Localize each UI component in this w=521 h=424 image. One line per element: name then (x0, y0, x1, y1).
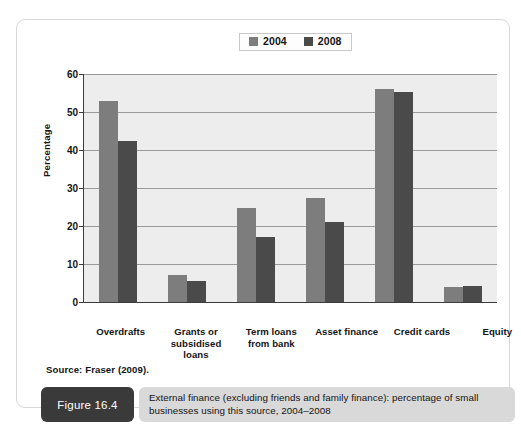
bar-2004 (99, 101, 118, 302)
bar-2004 (237, 208, 256, 302)
y-tick-label: 0 (72, 297, 78, 308)
y-tick-mark (79, 302, 84, 303)
x-axis-label: Term loans from bank (234, 326, 309, 361)
bar-group (153, 74, 222, 302)
y-tick-label: 10 (67, 259, 78, 270)
bar-group (84, 74, 153, 302)
x-axis-label: Grants or subsidised loans (158, 326, 233, 361)
bar-2008 (463, 286, 482, 302)
legend-swatch-2004 (249, 37, 258, 46)
legend-label-2004: 2004 (263, 36, 287, 47)
bar-2008 (325, 222, 344, 302)
bar-2008 (187, 281, 206, 302)
chart-plot-region: Percentage 0102030405060 (45, 67, 497, 323)
figure-number-tag: Figure 16.4 (41, 387, 134, 422)
bar-2008 (394, 92, 413, 302)
x-axis-labels: OverdraftsGrants or subsidised loansTerm… (83, 326, 521, 361)
legend-label-2008: 2008 (318, 36, 342, 47)
bar-group (222, 74, 291, 302)
bar-2004 (375, 89, 394, 302)
y-tick-label: 40 (67, 145, 78, 156)
bar-group (359, 74, 428, 302)
figure-panel: 2004 2008 Percentage 0102030405060 Overd… (16, 19, 510, 408)
source-note: Source: Fraser (2009). (46, 364, 149, 375)
y-tick-label: 50 (67, 107, 78, 118)
legend-swatch-2008 (304, 37, 313, 46)
bar-2008 (118, 141, 137, 302)
bar-2008 (256, 237, 275, 302)
figure-caption-strip: Figure 16.4 External finance (excluding … (41, 387, 515, 422)
y-tick-label: 60 (67, 69, 78, 80)
x-axis-label: Credit cards (384, 326, 459, 361)
chart-legend: 2004 2008 (239, 33, 352, 51)
plot-area: 0102030405060 (83, 74, 497, 303)
bar-2004 (306, 198, 325, 303)
x-axis-label: Overdrafts (83, 326, 158, 361)
y-axis-title: Percentage (41, 163, 52, 177)
y-tick-label: 20 (67, 221, 78, 232)
bar-group (290, 74, 359, 302)
legend-entry-2008: 2008 (304, 36, 342, 47)
bars-layer (84, 74, 497, 302)
bar-2004 (444, 287, 463, 302)
x-axis-label: Asset finance (309, 326, 384, 361)
x-axis-label: Equity (460, 326, 521, 361)
figure-caption-text: External finance (excluding friends and … (139, 387, 515, 422)
legend-entry-2004: 2004 (249, 36, 287, 47)
bar-group (428, 74, 497, 302)
bar-2004 (168, 275, 187, 302)
y-tick-label: 30 (67, 183, 78, 194)
